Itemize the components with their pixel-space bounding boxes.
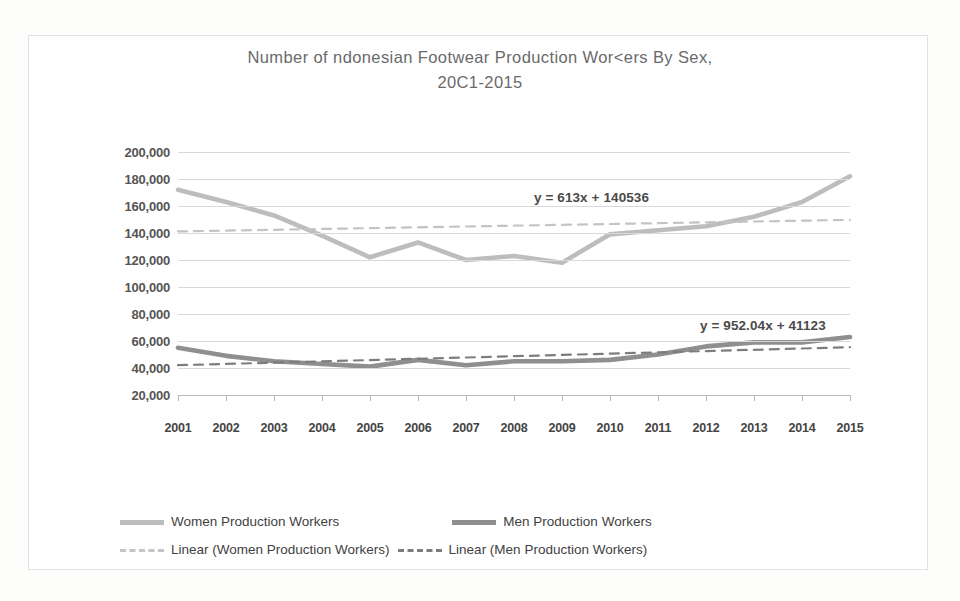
y-axis-labels: 200,000180,000160,000140,000120,000100,0… bbox=[96, 152, 170, 395]
gridline-160000 bbox=[178, 206, 850, 207]
legend-swatch-men-trendline-icon bbox=[398, 549, 442, 552]
series-svg bbox=[178, 152, 850, 395]
x-axis-tick-label-2006: 2006 bbox=[404, 421, 431, 435]
chart-title: Number of ndonesian Footwear Production … bbox=[120, 45, 840, 95]
y-axis-tick-label-200000: 200,000 bbox=[124, 145, 170, 160]
legend-item-men-production-workers[interactable]: Men Production Workers bbox=[452, 515, 651, 529]
gridline-80000 bbox=[178, 314, 850, 315]
trendline-equation-women: y = 613x + 140536 bbox=[534, 190, 649, 205]
gridline-140000 bbox=[178, 233, 850, 234]
x-axis-tick-2001 bbox=[178, 395, 179, 401]
legend-label-linear-women-production-workers: Linear (Women Production Workers) bbox=[171, 543, 390, 557]
legend-row-1: Women Production Workers Men Production … bbox=[120, 508, 880, 536]
chart-title-line-1: Number of ndonesian Footwear Production … bbox=[247, 48, 712, 66]
y-axis-tick-label-140000: 140,000 bbox=[124, 226, 170, 241]
x-axis-tick-2005 bbox=[370, 395, 371, 401]
legend-item-women-production-workers[interactable]: Women Production Workers bbox=[120, 515, 339, 529]
gridline-200000 bbox=[178, 152, 850, 153]
x-axis-tick-2007 bbox=[466, 395, 467, 401]
x-axis-tick-label-2008: 2008 bbox=[500, 421, 527, 435]
x-axis-tick-label-2001: 2001 bbox=[164, 421, 191, 435]
x-axis-tick-label-2002: 2002 bbox=[212, 421, 239, 435]
x-axis-tick-label-2003: 2003 bbox=[260, 421, 287, 435]
x-axis-tick-label-2007: 2007 bbox=[452, 421, 479, 435]
x-axis-tick-label-2015: 2015 bbox=[836, 421, 863, 435]
legend-swatch-men-line-icon bbox=[452, 520, 496, 525]
x-axis-tick-label-2004: 2004 bbox=[308, 421, 335, 435]
chart-title-line-2: 20C1-2015 bbox=[120, 70, 840, 95]
x-axis-tick-label-2012: 2012 bbox=[692, 421, 719, 435]
legend-label-men-production-workers: Men Production Workers bbox=[503, 515, 651, 529]
legend-label-linear-men-production-workers: Linear (Men Production Workers) bbox=[449, 543, 648, 557]
x-axis-tick-2010 bbox=[610, 395, 611, 401]
x-axis-tick-label-2005: 2005 bbox=[356, 421, 383, 435]
x-axis-tick-label-2009: 2009 bbox=[548, 421, 575, 435]
gridline-40000 bbox=[178, 368, 850, 369]
x-axis-tick-label-2014: 2014 bbox=[788, 421, 815, 435]
x-axis-tick-2015 bbox=[850, 395, 851, 401]
trendline-equation-men: y = 952.04x + 41123 bbox=[700, 318, 826, 333]
y-axis-tick-label-60000: 60,000 bbox=[131, 334, 170, 349]
y-axis-tick-label-120000: 120,000 bbox=[124, 253, 170, 268]
x-axis-tick-2003 bbox=[274, 395, 275, 401]
legend-label-women-production-workers: Women Production Workers bbox=[171, 515, 339, 529]
series-line-linear-women-production-workers bbox=[178, 220, 850, 232]
series-line-women-production-workers bbox=[178, 176, 850, 262]
x-axis-tick-2006 bbox=[418, 395, 419, 401]
legend-row-2: Linear (Women Production Workers) Linear… bbox=[120, 536, 880, 564]
y-axis-tick-label-80000: 80,000 bbox=[131, 307, 170, 322]
plot-area bbox=[178, 152, 850, 395]
x-axis-tick-2013 bbox=[754, 395, 755, 401]
x-axis-tick-2012 bbox=[706, 395, 707, 401]
y-axis-tick-label-180000: 180,000 bbox=[124, 172, 170, 187]
y-axis-tick-label-40000: 40,000 bbox=[131, 361, 170, 376]
chart-legend: Women Production Workers Men Production … bbox=[120, 508, 880, 564]
x-axis-tick-2009 bbox=[562, 395, 563, 401]
x-axis-tick-label-2010: 2010 bbox=[596, 421, 623, 435]
y-axis-tick-label-160000: 160,000 bbox=[124, 199, 170, 214]
legend-swatch-women-line-icon bbox=[120, 520, 164, 525]
gridline-120000 bbox=[178, 260, 850, 261]
x-axis-tick-2002 bbox=[226, 395, 227, 401]
x-axis-tick-label-2013: 2013 bbox=[740, 421, 767, 435]
x-axis-tick-2014 bbox=[802, 395, 803, 401]
y-axis-tick-label-20000: 20,000 bbox=[131, 388, 170, 403]
legend-item-linear-women-production-workers[interactable]: Linear (Women Production Workers) bbox=[120, 543, 390, 557]
gridline-100000 bbox=[178, 287, 850, 288]
x-axis-tick-label-2011: 2011 bbox=[645, 421, 671, 435]
gridline-180000 bbox=[178, 179, 850, 180]
x-axis-tick-2004 bbox=[322, 395, 323, 401]
x-axis-tick-2008 bbox=[514, 395, 515, 401]
gridline-60000 bbox=[178, 341, 850, 342]
legend-item-linear-men-production-workers[interactable]: Linear (Men Production Workers) bbox=[398, 543, 648, 557]
x-axis-tick-2011 bbox=[658, 395, 659, 401]
y-axis-tick-label-100000: 100,000 bbox=[124, 280, 170, 295]
legend-swatch-women-trendline-icon bbox=[120, 549, 164, 552]
